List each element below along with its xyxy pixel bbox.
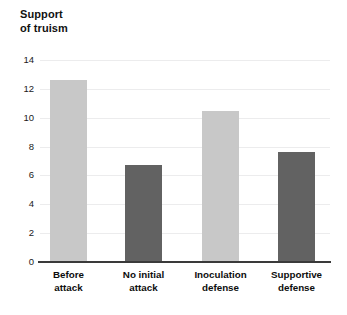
- gridline: [40, 60, 330, 61]
- x-axis-category-label: Supportive defense: [252, 268, 342, 294]
- plot-area: [40, 60, 330, 262]
- y-axis-tick-label: 12: [10, 84, 34, 94]
- y-axis-tick-label: 4: [10, 200, 34, 210]
- bar[interactable]: [278, 152, 315, 262]
- bar[interactable]: [125, 165, 162, 262]
- x-axis-category-labels: Before attackNo initial attackInoculatio…: [0, 268, 347, 308]
- chart-title: Support of truism: [20, 8, 68, 35]
- y-axis-tick-label: 6: [10, 171, 34, 181]
- bar-chart-figure: Support of truism 02468101214 Before att…: [0, 0, 347, 315]
- y-axis-tick-label: 14: [10, 55, 34, 65]
- y-axis-tick-label: 0: [10, 257, 34, 267]
- x-axis-line: [38, 261, 331, 263]
- bar[interactable]: [202, 111, 239, 263]
- y-axis-tick-labels: 02468101214: [6, 60, 34, 262]
- bar[interactable]: [50, 80, 87, 262]
- y-axis-tick-label: 2: [10, 228, 34, 238]
- y-axis-tick-label: 8: [10, 142, 34, 152]
- y-axis-tick-label: 10: [10, 113, 34, 123]
